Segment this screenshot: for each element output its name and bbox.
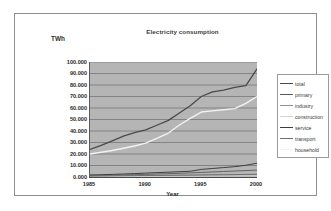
x-axis-title: Year xyxy=(89,191,256,197)
page-frame: Electricity consumption TWh 100.00090.00… xyxy=(14,13,317,196)
legend-item-industry[interactable]: industry xyxy=(280,100,328,111)
series-line-household xyxy=(90,97,257,155)
legend-label: industry xyxy=(295,103,313,109)
x-tick-label: 1995 xyxy=(194,181,206,187)
legend-item-service[interactable]: service xyxy=(280,122,328,133)
legend-item-construction[interactable]: construction xyxy=(280,111,328,122)
y-axis-unit-label: TWh xyxy=(51,35,65,42)
y-tick-label: 0.000 xyxy=(43,174,87,180)
legend-swatch-icon xyxy=(280,116,293,117)
chart-lines xyxy=(90,62,257,177)
legend-swatch-icon xyxy=(280,94,293,95)
legend-swatch-icon xyxy=(280,138,293,139)
legend-label: transport xyxy=(295,136,315,142)
legend-item-household[interactable]: household xyxy=(280,144,328,155)
y-tick-label: 80.000 xyxy=(43,82,87,88)
legend-swatch-icon xyxy=(280,149,293,150)
legend-swatch-icon xyxy=(280,83,293,84)
y-tick-label: 50.000 xyxy=(43,116,87,122)
chart-legend: totalprimaryindustryconstructionservicet… xyxy=(277,74,329,158)
y-tick-label: 90.000 xyxy=(43,70,87,76)
x-axis-tick-labels: 1985199019952000 xyxy=(89,181,256,191)
x-tick-label: 1990 xyxy=(138,181,150,187)
legend-label: construction xyxy=(295,114,323,120)
legend-label: household xyxy=(295,147,319,153)
chart-title: Electricity consumption xyxy=(110,28,255,35)
y-tick-label: 30.000 xyxy=(43,139,87,145)
legend-item-primary[interactable]: primary xyxy=(280,89,328,100)
legend-label: service xyxy=(295,125,311,131)
x-tick-label: 1985 xyxy=(83,181,95,187)
x-tick-label: 2000 xyxy=(250,181,262,187)
y-tick-label: 70.000 xyxy=(43,93,87,99)
legend-swatch-icon xyxy=(280,105,293,106)
legend-item-total[interactable]: total xyxy=(280,78,328,89)
legend-item-transport[interactable]: transport xyxy=(280,133,328,144)
legend-label: primary xyxy=(295,92,312,98)
y-tick-label: 60.000 xyxy=(43,105,87,111)
y-axis-tick-labels: 100.00090.00080.00070.00060.00050.00040.… xyxy=(41,62,87,177)
legend-swatch-icon xyxy=(280,127,293,128)
y-tick-label: 10.000 xyxy=(43,162,87,168)
legend-label: total xyxy=(295,81,305,87)
y-tick-label: 40.000 xyxy=(43,128,87,134)
plot-area xyxy=(89,62,257,178)
y-tick-label: 20.000 xyxy=(43,151,87,157)
y-tick-label: 100.000 xyxy=(43,59,87,65)
